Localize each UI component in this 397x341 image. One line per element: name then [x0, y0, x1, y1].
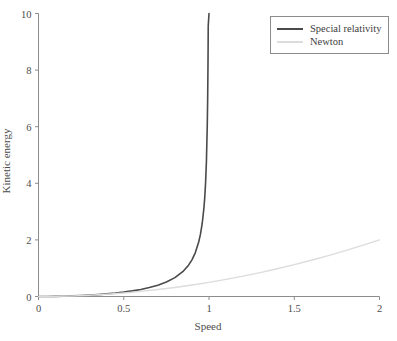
- chart-legend: Special relativity Newton: [270, 16, 389, 54]
- axis-lines: [39, 14, 380, 297]
- legend-label-newton: Newton: [310, 35, 343, 48]
- y-axis-title: Kinetic energy: [0, 129, 12, 194]
- series-line-1: [39, 240, 380, 297]
- x-tick-label: 1: [206, 303, 211, 314]
- legend-label-special-relativity: Special relativity: [310, 22, 381, 35]
- series-paths: [39, 14, 380, 297]
- x-tick-label: 0.5: [117, 303, 130, 314]
- y-tick-label: 0: [0, 291, 32, 302]
- legend-item-newton[interactable]: Newton: [277, 35, 381, 48]
- legend-item-special-relativity[interactable]: Special relativity: [277, 22, 381, 35]
- y-tick-label: 8: [0, 65, 32, 76]
- legend-swatch-special-relativity: [277, 28, 303, 30]
- legend-swatch-newton: [277, 41, 303, 43]
- kinetic-energy-chart: 0246810 00.511.52 Speed Kinetic energy S…: [0, 0, 397, 341]
- x-tick-label: 2: [377, 303, 382, 314]
- series-line-0: [39, 14, 210, 297]
- x-axis-title: Speed: [195, 320, 222, 332]
- x-tick-label: 1.5: [288, 303, 301, 314]
- x-tick-label: 0: [36, 303, 41, 314]
- y-tick-label: 2: [0, 234, 32, 245]
- y-tick-label: 10: [0, 8, 32, 19]
